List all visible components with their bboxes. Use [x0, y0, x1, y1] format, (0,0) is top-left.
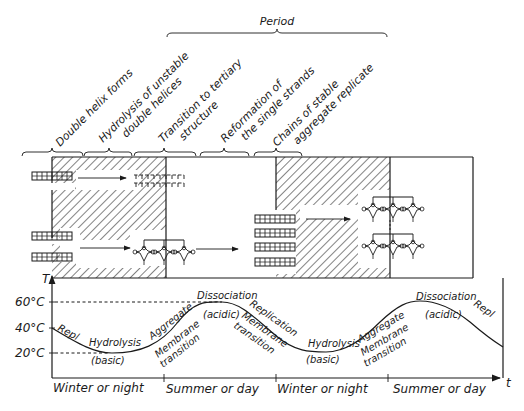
replication-cycle-diagram: Period Double helix forms Hydrolysis of … [0, 0, 524, 411]
annotation-basic: (basic) [91, 355, 125, 366]
season-label-winter: Winter or night [277, 382, 369, 396]
season-label-winter: Winter or night [53, 381, 145, 395]
y-tick-20: 20°C [15, 346, 45, 360]
y-tick-40: 40°C [15, 321, 45, 335]
annotation-repl: Repl [56, 322, 81, 342]
annotation-hydrolysis: Hydrolysis [308, 338, 360, 349]
x-axis-label: t [506, 376, 512, 390]
season-label-summer: Summer or day [166, 382, 260, 396]
annotation-acidic: (acidic) [425, 309, 462, 320]
annotation-basic: (basic) [306, 354, 340, 365]
y-tick-60: 60°C [15, 295, 45, 309]
phase-label-chains: Chains of stable aggregate replicate [270, 52, 377, 159]
period-label: Period [260, 15, 296, 28]
annotation-repl: Repl [472, 298, 497, 320]
temperature-graph: T t 60°C 40°C 20°C Repl Hydrolysis (basi… [15, 272, 512, 396]
phase-braces [22, 148, 302, 156]
period-brace: Period [167, 15, 387, 37]
y-axis-label: T [42, 272, 51, 286]
schematic-panel [32, 157, 473, 278]
season-label-summer: Summer or day [393, 382, 487, 396]
annotation-hydrolysis: Hydrolysis [89, 337, 141, 348]
annotation-acidic: (acidic) [203, 309, 240, 320]
annotation-dissociation: Dissociation [197, 290, 258, 301]
annotation-dissociation: Dissociation [416, 291, 477, 302]
